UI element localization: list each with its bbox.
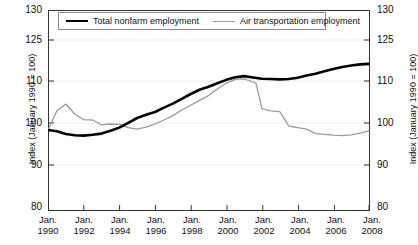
x-tick-month: Jan. xyxy=(349,215,395,226)
chart-legend: Total nonfarm employment Air transportat… xyxy=(58,12,326,30)
legend-swatch-black-line xyxy=(66,20,88,22)
y-tick-label-left-125: 125 xyxy=(16,35,42,45)
plot-area xyxy=(48,10,370,211)
y-tick-label-left-110: 110 xyxy=(16,76,42,86)
y-tick-label-right-130: 130 xyxy=(377,5,403,15)
legend-label-air-transportation: Air transportation employment xyxy=(240,16,360,26)
y-tick-label-left-130: 130 xyxy=(16,5,42,15)
y-tick-label-right-80: 80 xyxy=(377,202,403,212)
y-tick-label-right-90: 90 xyxy=(377,160,403,170)
y-tick-label-right-100: 100 xyxy=(377,118,403,128)
x-tick-year: 2008 xyxy=(349,226,395,237)
legend-swatch-gray-line xyxy=(213,21,235,22)
legend-entry-air-transportation: Air transportation employment xyxy=(213,16,360,26)
y-tick-label-left-90: 90 xyxy=(16,160,42,170)
y-axis-title-right: Index (January 1990 = 100) xyxy=(408,29,418,189)
chart-canvas xyxy=(48,10,370,211)
y-tick-label-right-125: 125 xyxy=(377,35,403,45)
y-tick-label-right-110: 110 xyxy=(377,76,403,86)
y-tick-label-left-80: 80 xyxy=(16,202,42,212)
legend-label-total-nonfarm: Total nonfarm employment xyxy=(93,16,199,26)
y-tick-label-left-100: 100 xyxy=(16,118,42,128)
x-tick-label-2008: Jan. 2008 xyxy=(349,215,395,236)
legend-entry-total-nonfarm: Total nonfarm employment xyxy=(66,16,199,26)
